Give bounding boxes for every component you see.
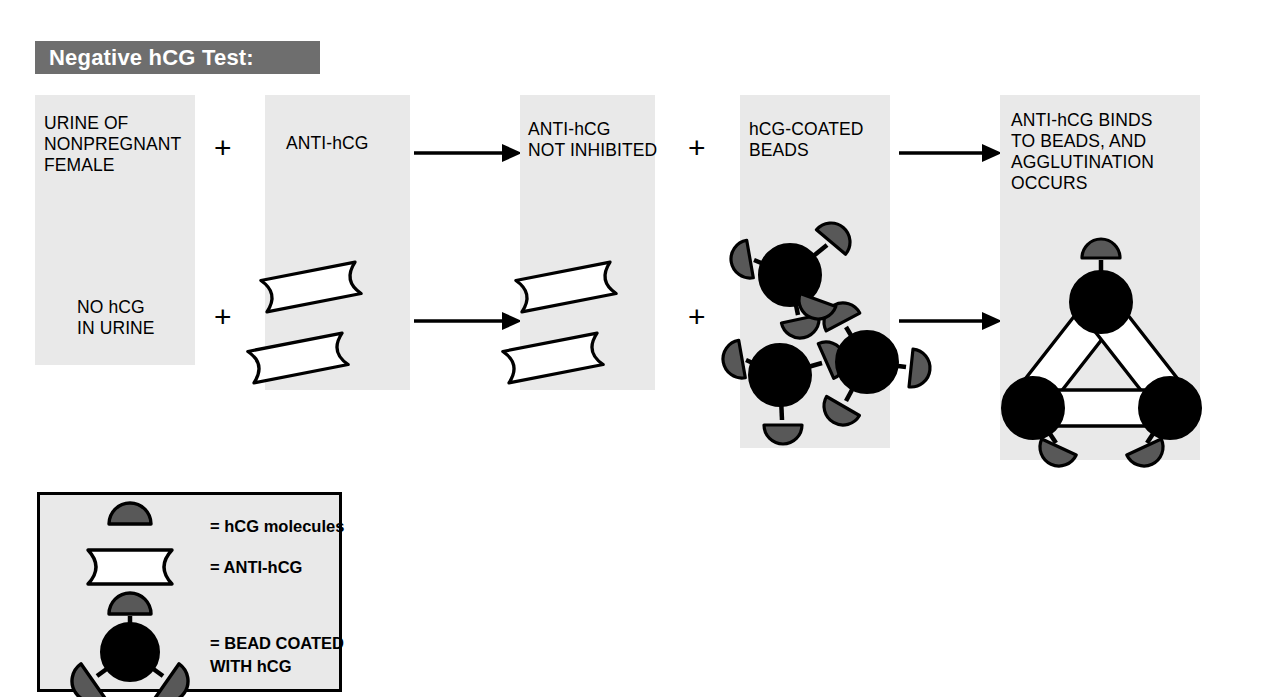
- hcg-molecule: [1082, 239, 1120, 258]
- hcg-molecule: [1127, 439, 1169, 472]
- plus-operator-bottom-2: +: [688, 302, 706, 332]
- arrow-panel4-to-panel5-bottom: [895, 308, 1005, 334]
- panel-coated-beads-label-line1: hCG-COATED: [749, 119, 863, 140]
- panel-coated-beads-label-line2: BEADS: [749, 140, 809, 161]
- anti-hcg-molecule: [503, 333, 603, 383]
- panel-urine-label-line2: NONPREGNANT: [44, 134, 181, 155]
- hcg-molecule: [1034, 439, 1076, 472]
- legend-symbols: [55, 500, 225, 690]
- arrow-panel2-to-panel3-top: [410, 140, 525, 166]
- legend-anti-hcg-glyph: [88, 550, 172, 584]
- panel-agglutination-label-line4: OCCURS: [1011, 173, 1087, 194]
- plus-operator-top-1: +: [214, 133, 232, 163]
- plus-operator-top-2: +: [688, 133, 706, 163]
- bead-core: [101, 623, 159, 681]
- panel-not-inhibited-label-line2: NOT INHIBITED: [528, 140, 657, 161]
- section-title-bar: Negative hCG Test:: [35, 41, 320, 74]
- bead-core: [749, 344, 811, 406]
- panel-urine-sublabel-line1: NO hCG: [77, 297, 145, 318]
- antibody-group-panel2: [265, 250, 415, 390]
- antibody-group-panel3: [520, 250, 665, 390]
- bead-core: [1070, 271, 1132, 333]
- legend-label-hcg: = hCG molecules: [210, 516, 344, 537]
- page-title: Negative hCG Test:: [49, 45, 254, 71]
- arrow-panel4-to-panel5-top: [895, 140, 1005, 166]
- panel-urine-label-line1: URINE OF: [44, 113, 128, 134]
- legend-label-bead-line2: WITH hCG: [210, 656, 292, 677]
- coated-bead: [720, 336, 851, 444]
- panel-not-inhibited-label-line1: ANTI-hCG: [528, 119, 610, 140]
- panel-agglutination-label-line2: TO BEADS, AND: [1011, 131, 1146, 152]
- legend-label-anti-hcg: = ANTI-hCG: [210, 557, 302, 578]
- anti-hcg-molecule: [516, 262, 616, 312]
- anti-hcg-molecule: [261, 262, 361, 312]
- panel-urine-sublabel-line2: IN URINE: [77, 318, 155, 339]
- anti-hcg-molecule: [248, 333, 348, 383]
- bead-core: [1139, 377, 1201, 439]
- bead-core: [1002, 377, 1064, 439]
- legend-label-bead: = BEAD COATED: [210, 633, 344, 654]
- panel-anti-hcg-label: ANTI-hCG: [286, 133, 368, 154]
- panel-agglutination-label-line1: ANTI-hCG BINDS: [1011, 110, 1152, 131]
- legend-hcg-molecule-glyph: [109, 503, 151, 524]
- panel-agglutination-label-line3: AGGLUTINATION: [1011, 152, 1154, 173]
- bead-cluster-panel4: [730, 215, 920, 450]
- diagram-canvas: Negative hCG Test: URINE OF NONPREGNANT …: [0, 0, 1269, 697]
- legend-coated-bead-glyph: [64, 593, 196, 697]
- anti-hcg-molecule-bound: [1051, 390, 1151, 426]
- arrow-panel2-to-panel3-bottom: [410, 308, 525, 334]
- plus-operator-bottom-1: +: [214, 302, 232, 332]
- panel-urine-label-line3: FEMALE: [44, 155, 115, 176]
- bead-core: [836, 331, 898, 393]
- agglutination-complex: [1000, 210, 1210, 460]
